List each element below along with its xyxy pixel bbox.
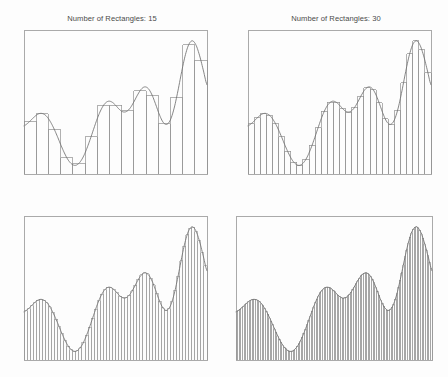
riemann-rectangles: [24, 227, 207, 360]
plot-area-120: [224, 190, 448, 377]
plot-area-60: [0, 190, 224, 377]
function-curve: [24, 41, 207, 166]
plot-area-15: [0, 0, 224, 190]
riemann-sum-figure: Number of Rectangles: 15 Number of Recta…: [0, 0, 448, 377]
riemann-rectangles: [24, 45, 207, 174]
riemann-rectangles: [248, 41, 431, 174]
plot-area-30: [224, 0, 448, 190]
plot-box: [24, 30, 207, 174]
panel-120: Number of Rectangles: 120: [224, 190, 448, 377]
panel-60: Number of Rectangles: 60: [0, 190, 224, 377]
riemann-rectangles: [236, 227, 432, 360]
panel-30: Number of Rectangles: 30: [224, 0, 448, 190]
panel-15: Number of Rectangles: 15: [0, 0, 224, 190]
